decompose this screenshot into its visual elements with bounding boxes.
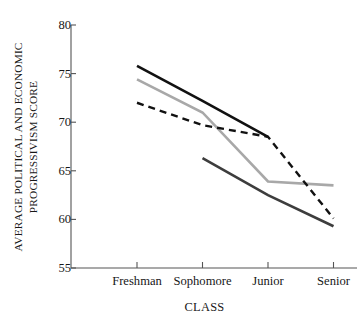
x-axis-tick-labels: FreshmanSophomoreJuniorSenior — [0, 274, 363, 294]
x-axis-title: CLASS — [0, 300, 363, 315]
x-tick-label: Junior — [252, 274, 283, 289]
y-tick-label: 80 — [43, 18, 71, 33]
x-tick-label: Sophomore — [173, 274, 231, 289]
axis-tick-marks — [71, 25, 334, 268]
y-axis-title: AVERAGE POLITICAL AND ECONOMIC PROGRESSI… — [6, 18, 46, 276]
data-series-lines — [137, 66, 334, 226]
y-tick-label: 60 — [43, 212, 71, 227]
x-tick-label: Senior — [317, 274, 350, 289]
x-tick-label: Freshman — [112, 274, 162, 289]
axis-spine — [71, 25, 357, 268]
y-axis-title-line-1: AVERAGE POLITICAL AND ECONOMIC — [11, 42, 26, 251]
axes-lines — [71, 25, 357, 268]
x-axis-title-text: CLASS — [184, 300, 224, 314]
y-axis-title-line-2: PROGRESSIVISM SCORE — [26, 42, 41, 251]
chart-figure: AVERAGE POLITICAL AND ECONOMIC PROGRESSI… — [0, 0, 363, 326]
y-tick-label: 65 — [43, 163, 71, 178]
y-tick-label: 70 — [43, 115, 71, 130]
series-black-solid — [137, 66, 268, 137]
y-tick-label: 75 — [43, 66, 71, 81]
series-light-gray-solid — [137, 79, 334, 185]
